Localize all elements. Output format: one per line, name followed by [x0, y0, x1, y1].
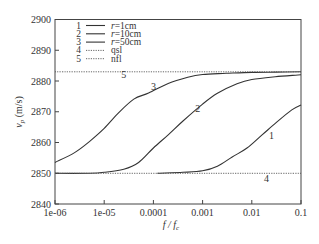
x-axis-ticks: 1e-061e-050.00010.0010.010.1: [44, 200, 308, 218]
y-tick-label: 2860: [31, 137, 51, 148]
x-tick-label: 1e-05: [93, 207, 116, 218]
curve-label-1: 1: [269, 130, 274, 141]
x-tick-label: 0.0001: [140, 207, 168, 218]
x-tick-label: 1e-06: [44, 207, 67, 218]
series-layer: [55, 72, 301, 174]
x-axis-label: f / fc: [163, 219, 180, 232]
curve-label-3: 3: [151, 81, 156, 92]
curve-label-4: 4: [264, 173, 269, 184]
x-tick-label: 0.1: [295, 207, 308, 218]
curve-label-5: 5: [121, 69, 126, 80]
chart: 2840285028602870288028902900 1e-061e-050…: [0, 0, 319, 244]
series-1-line: [157, 105, 301, 173]
y-tick-label: 2880: [31, 76, 51, 87]
curve-label-2: 2: [195, 103, 200, 114]
series-2-line: [55, 75, 301, 174]
legend-label: nfl: [111, 54, 122, 64]
curve-labels: 12345: [121, 69, 274, 185]
y-tick-label: 2900: [31, 14, 51, 25]
legend-item-3: 3r=50cm: [76, 37, 142, 47]
y-tick-label: 2890: [31, 45, 51, 56]
x-tick-label: 0.001: [191, 207, 214, 218]
series-3-line: [55, 72, 301, 163]
y-tick-label: 2850: [31, 168, 51, 179]
y-axis-label: vp (m/s): [13, 96, 26, 128]
legend-item-5: 5nfl: [76, 54, 122, 64]
x-tick-label: 0.01: [243, 207, 261, 218]
legend: 1r=1cm2r=10cm3r=50cm4qsl5nfl: [76, 21, 142, 64]
y-tick-label: 2870: [31, 106, 51, 117]
legend-number: 5: [76, 54, 81, 64]
